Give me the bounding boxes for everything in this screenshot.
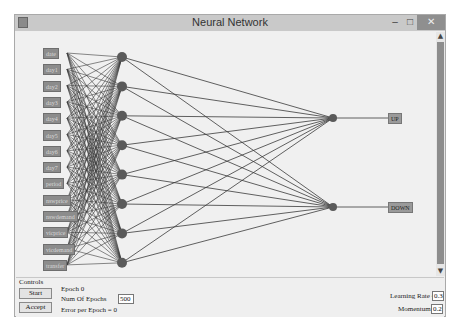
- connection-edge: [122, 207, 333, 263]
- connection-edge: [122, 57, 333, 118]
- input-node-label: day3: [43, 97, 61, 108]
- input-node-label: day1: [43, 64, 61, 75]
- input-node-label: transfer: [43, 260, 67, 271]
- controls-title: Controls: [19, 278, 43, 286]
- input-node-label: nswdemand: [43, 211, 78, 222]
- input-node-label: vicprice: [43, 227, 68, 238]
- input-node-label: day5: [43, 130, 61, 141]
- input-node-label: day6: [43, 146, 61, 157]
- connection-edge: [122, 86, 333, 118]
- scroll-down-arrow-icon[interactable]: ▼: [436, 267, 445, 276]
- connection-edge: [67, 53, 122, 57]
- connection-edge: [122, 207, 333, 233]
- connection-edge: [122, 118, 333, 233]
- neural-network-window: Neural Network – □ ✕ dateday1day2day3day…: [14, 14, 446, 317]
- controls-panel: Controls Start Accept Epoch 0 Num Of Epo…: [16, 277, 444, 317]
- num-epochs-label: Num Of Epochs: [61, 295, 107, 303]
- learning-rate-label: Learning Rate =: [390, 292, 436, 300]
- network-canvas: dateday1day2day3day4day5day6day7periodns…: [16, 32, 436, 276]
- connection-edge: [122, 118, 333, 175]
- connection-edge: [67, 57, 122, 69]
- hidden-node: [117, 81, 127, 91]
- output-node-label: DOWN: [388, 202, 413, 213]
- hidden-node: [117, 140, 127, 150]
- title-bar[interactable]: Neural Network – □ ✕: [15, 15, 445, 31]
- hidden-node: [117, 199, 127, 209]
- maximize-button[interactable]: □: [403, 15, 417, 30]
- window-title: Neural Network: [15, 16, 445, 28]
- hidden-node: [117, 111, 127, 121]
- input-node-label: date: [43, 48, 59, 59]
- close-button[interactable]: ✕: [417, 15, 445, 30]
- input-node-label: day4: [43, 113, 61, 124]
- output-node-label: UP: [388, 113, 402, 124]
- num-epochs-input[interactable]: 500: [118, 294, 134, 304]
- epoch-label-text: Epoch: [61, 285, 79, 293]
- input-node-label: vicdemand: [43, 244, 75, 255]
- connection-edge: [122, 204, 333, 207]
- scroll-up-arrow-icon[interactable]: ▲: [436, 32, 445, 41]
- connection-edge: [122, 118, 333, 145]
- error-per-epoch-label: Error per Epoch = 0: [61, 306, 117, 314]
- hidden-node: [117, 170, 127, 180]
- input-node-label: day2: [43, 81, 61, 92]
- hidden-node: [117, 228, 127, 238]
- start-button[interactable]: Start: [19, 288, 52, 299]
- connection-edge: [122, 116, 333, 118]
- output-node: [329, 114, 337, 122]
- input-node-label: nswprice: [43, 195, 71, 206]
- output-node: [329, 203, 337, 211]
- accept-button[interactable]: Accept: [19, 302, 52, 313]
- learning-rate-input[interactable]: 0.3: [432, 291, 444, 301]
- minimize-button[interactable]: –: [388, 15, 402, 30]
- input-node-label: day7: [43, 162, 61, 173]
- epoch-label: Epoch 0: [61, 285, 84, 293]
- hidden-node: [117, 258, 127, 268]
- network-graph: [16, 32, 436, 276]
- vertical-scrollbar[interactable]: ▲ ▼: [436, 32, 445, 276]
- connection-edge: [67, 263, 122, 265]
- hidden-node: [117, 52, 127, 62]
- scroll-thumb[interactable]: [437, 42, 444, 264]
- input-node-label: period: [43, 178, 64, 189]
- connection-edge: [122, 118, 333, 263]
- momentum-input[interactable]: 0.2: [431, 304, 443, 314]
- epoch-value: 0: [81, 285, 85, 293]
